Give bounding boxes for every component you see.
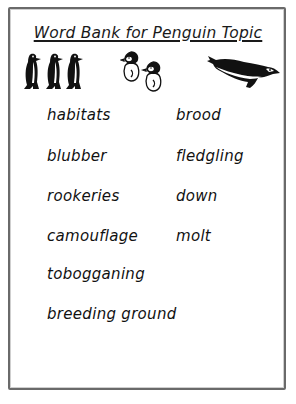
penguin-chicks-icon: [120, 50, 166, 94]
word-breeding-ground: breeding ground: [47, 305, 177, 323]
word-rookeries: rookeries: [47, 187, 120, 205]
sliding-penguin-icon: [206, 55, 282, 89]
word-down: down: [176, 187, 218, 205]
standing-penguins-icon: [22, 52, 88, 92]
word-camouflage: camouflage: [47, 227, 138, 245]
word-tobogganing: tobogganing: [47, 265, 145, 283]
word-molt: molt: [176, 227, 211, 245]
word-habitats: habitats: [47, 106, 111, 124]
word-brood: brood: [176, 106, 221, 124]
worksheet-title: Word Bank for Penguin Topic: [0, 24, 296, 42]
word-fledgling: fledgling: [176, 147, 244, 165]
word-blubber: blubber: [47, 147, 107, 165]
